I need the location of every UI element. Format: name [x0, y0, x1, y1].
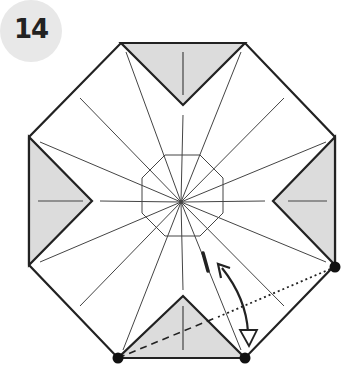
reference-dot-right — [330, 262, 341, 273]
reference-dot-bottom-right — [240, 353, 251, 364]
origami-diagram — [0, 0, 353, 379]
reference-dot-bottom-left — [113, 353, 124, 364]
